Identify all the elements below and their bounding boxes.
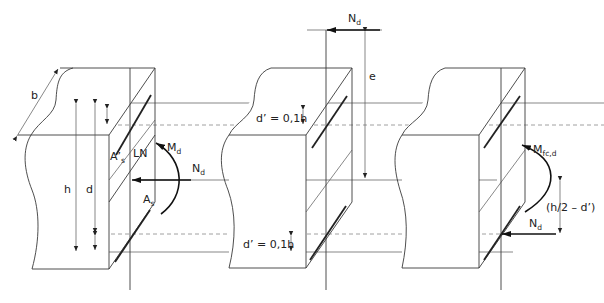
moment-label: Mfc,d (533, 143, 557, 158)
moment-label: Md (167, 141, 182, 156)
beam-section-diagram: b h d A’s LN As Md Nd Nd (0, 0, 604, 303)
bottom-steel-label: As (143, 193, 155, 208)
eccentric-axial-force-label: Nd (348, 12, 361, 27)
middle-block: Nd e d’ = 0,1h d’ = 0,1h (221, 12, 382, 290)
bottom-steel-bar (115, 210, 150, 262)
top-cover-label: d’ = 0,1h (256, 112, 307, 125)
eccentricity-label: e (369, 70, 376, 83)
height-label: h (64, 183, 71, 196)
lever-arm-label: (h/2 – d’) (546, 201, 595, 214)
axial-force-label: Nd (192, 162, 205, 177)
top-steel-label: A’s (110, 150, 125, 165)
right-block: Mfc,d Nd (h/2 – d’) (395, 68, 595, 290)
bottom-cover-label: d’ = 0,1h (243, 238, 294, 251)
left-block: b h d A’s LN As Md Nd (17, 68, 205, 290)
width-label: b (31, 89, 38, 102)
effective-depth-label: d (86, 183, 93, 196)
axial-force-label: Nd (529, 217, 542, 232)
neutral-line-label: LN (133, 147, 147, 160)
